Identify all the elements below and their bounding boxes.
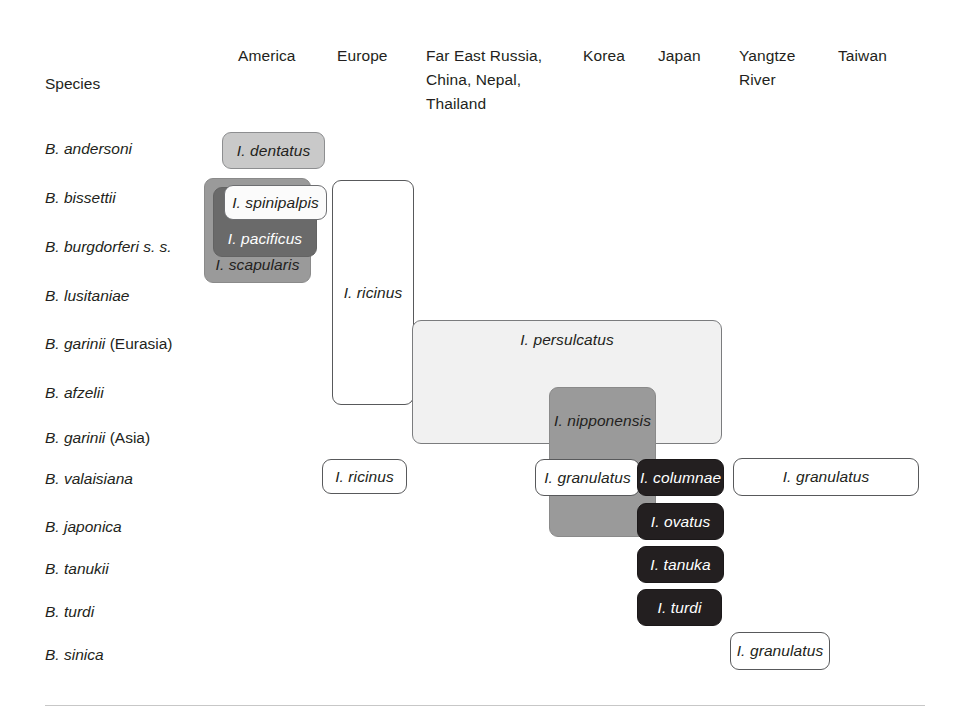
vector-box: I. granulatus xyxy=(733,458,919,496)
species-row-label: B. valaisiana xyxy=(45,469,133,489)
species-name: B. sinica xyxy=(45,646,104,663)
vector-box: I. granulatus xyxy=(535,459,640,496)
species-row-label: B. turdi xyxy=(45,602,94,622)
vector-box: I. columnae xyxy=(637,459,724,496)
vector-box: I. dentatus xyxy=(222,132,325,169)
species-row-label: B. tanukii xyxy=(45,559,109,579)
species-row-label: B. burgdorferi s. s. xyxy=(45,237,172,257)
species-name: B. lusitaniae xyxy=(45,287,129,304)
vector-box: I. ricinus xyxy=(322,459,407,494)
species-name: B. valaisiana xyxy=(45,470,133,487)
species-name: B. garinii xyxy=(45,429,110,446)
species-row-label: B. garinii (Asia) xyxy=(45,428,150,448)
vector-box: I. granulatus xyxy=(730,632,830,670)
species-name: B. japonica xyxy=(45,518,122,535)
vector-box: I. tanuka xyxy=(637,546,724,583)
species-row-label: B. afzelii xyxy=(45,383,104,403)
vector-box: I. ovatus xyxy=(637,503,724,540)
figure-canvas: Species AmericaEuropeFar East Russia, Ch… xyxy=(0,0,957,716)
vector-box: I. turdi xyxy=(637,589,722,626)
vector-box: I. ricinus xyxy=(332,180,414,405)
species-row-label: B. japonica xyxy=(45,517,122,537)
vector-box: I. spinipalpis xyxy=(224,185,327,220)
species-name: B. burgdorferi s. s. xyxy=(45,238,172,255)
column-header: Japan xyxy=(658,44,701,68)
column-header: Taiwan xyxy=(838,44,887,68)
column-header: America xyxy=(238,44,296,68)
column-header: Yangtze River xyxy=(739,44,795,92)
species-row-label: B. sinica xyxy=(45,645,104,665)
species-row-label: B. bissettii xyxy=(45,188,116,208)
species-name: B. garinii xyxy=(45,335,110,352)
footer-divider xyxy=(45,705,925,706)
species-row-label: B. andersoni xyxy=(45,139,132,159)
species-name: B. afzelii xyxy=(45,384,104,401)
species-region-qualifier: (Asia) xyxy=(110,429,150,446)
species-name: B. turdi xyxy=(45,603,94,620)
axis-title-species: Species xyxy=(45,74,100,94)
column-header: Europe xyxy=(337,44,388,68)
species-name: B. bissettii xyxy=(45,189,116,206)
species-name: B. tanukii xyxy=(45,560,109,577)
species-name: B. andersoni xyxy=(45,140,132,157)
column-header: Far East Russia, China, Nepal, Thailand xyxy=(426,44,542,116)
column-header: Korea xyxy=(583,44,625,68)
species-region-qualifier: (Eurasia) xyxy=(110,335,173,352)
species-row-label: B. garinii (Eurasia) xyxy=(45,334,173,354)
species-row-label: B. lusitaniae xyxy=(45,286,129,306)
